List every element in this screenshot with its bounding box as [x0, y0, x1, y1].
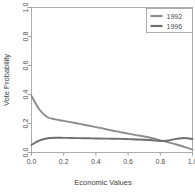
legend-label-1996: 1996	[167, 23, 183, 30]
x-axis-title: Economic Values	[74, 178, 132, 187]
y-tick-label: 0.6	[22, 61, 29, 71]
y-tick-label: 0.0	[22, 148, 29, 158]
x-tick-label: 0.8	[155, 158, 165, 165]
x-axis-ticks: 0.00.20.40.60.81.0	[27, 153, 195, 166]
x-tick-label: 0.2	[59, 158, 69, 165]
y-tick-label: 0.4	[22, 90, 29, 100]
chart-legend: 19921996	[147, 9, 193, 33]
series-line-1996	[32, 138, 193, 145]
series-lines	[32, 96, 193, 150]
series-line-1992	[32, 96, 193, 150]
y-tick-label: 1.0	[22, 3, 29, 13]
line-chart: 0.00.20.40.60.81.0 0.00.20.40.60.81.0 19…	[0, 0, 195, 192]
chart-figure: 0.00.20.40.60.81.0 0.00.20.40.60.81.0 19…	[0, 0, 195, 192]
y-tick-label: 0.8	[22, 32, 29, 42]
y-axis-ticks: 0.00.20.40.60.81.0	[22, 3, 32, 158]
y-axis-title: Vote Probability	[2, 54, 11, 106]
y-tick-label: 0.2	[22, 119, 29, 129]
legend-label-1992: 1992	[167, 13, 183, 20]
x-tick-label: 0.0	[27, 158, 37, 165]
x-tick-label: 0.6	[123, 158, 133, 165]
x-tick-label: 0.4	[91, 158, 101, 165]
x-tick-label: 1.0	[188, 158, 195, 165]
